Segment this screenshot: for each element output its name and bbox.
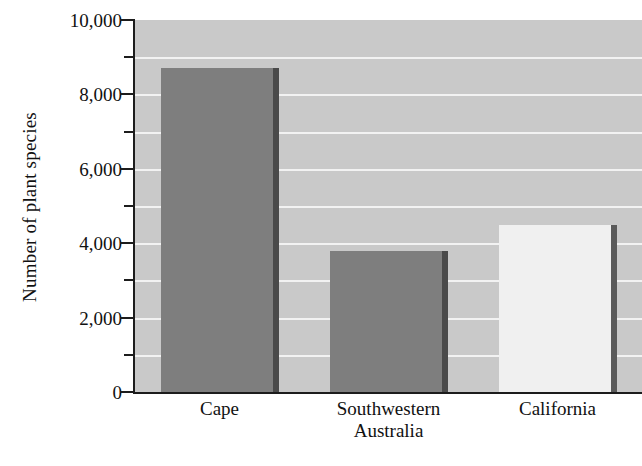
plot-area: [135, 20, 642, 392]
bar: [330, 251, 448, 392]
x-axis-category-label: California: [473, 398, 642, 420]
y-axis-tick-label: 10,000: [30, 11, 122, 30]
y-axis-tick-label: 0: [30, 383, 122, 402]
bar: [161, 68, 279, 392]
gridline: [135, 57, 642, 59]
x-axis-category-label: Cape: [135, 398, 304, 420]
x-axis-category-label-line: Australia: [304, 420, 473, 442]
y-axis-tick-label: 4,000: [30, 234, 122, 253]
bar-shadow-edge: [442, 251, 448, 392]
x-axis-category-label-line: Cape: [135, 398, 304, 420]
x-axis-category-label-line: California: [473, 398, 642, 420]
bar: [499, 225, 617, 392]
x-axis-category-label: SouthwesternAustralia: [304, 398, 473, 442]
x-axis-category-label-line: Southwestern: [304, 398, 473, 420]
bar-chart-figure: Number of plant species 02,0004,0006,000…: [0, 0, 642, 466]
y-axis-tick-label: 6,000: [30, 159, 122, 178]
y-axis-tick-labels: 02,0004,0006,0008,00010,000: [18, 0, 122, 466]
y-axis-tick-label: 8,000: [30, 85, 122, 104]
bar-body: [330, 251, 442, 392]
bar-body: [161, 68, 273, 392]
x-axis-line: [133, 392, 642, 394]
bar-body: [499, 225, 611, 392]
bar-shadow-edge: [273, 68, 279, 392]
x-axis-category-labels: CapeSouthwesternAustraliaCalifornia: [135, 398, 642, 460]
bar-shadow-edge: [611, 225, 617, 392]
y-axis-tick-label: 2,000: [30, 308, 122, 327]
